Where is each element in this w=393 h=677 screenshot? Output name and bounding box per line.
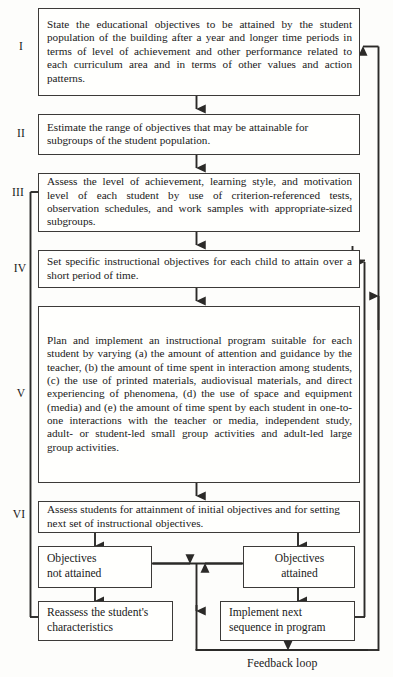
step-numeral-vi: VI <box>6 509 32 521</box>
outcome-box-reassess[interactable]: Reassess the student's characteristics <box>38 601 173 641</box>
outcome-text-implement: Implement next sequence in program <box>229 606 347 635</box>
step-numeral-i: I <box>10 41 32 53</box>
step-numeral-v: V <box>10 388 32 400</box>
step-box-iv[interactable]: Set specific instructional objectives fo… <box>38 250 360 288</box>
step-numeral-iv: IV <box>8 263 32 275</box>
outcome-text-attained: Objectives attained <box>252 552 347 581</box>
step-box-v[interactable]: Plan and implement an instructional prog… <box>38 306 360 483</box>
step-text-i: State the educational objectives to be a… <box>47 18 352 85</box>
step-box-iii[interactable]: Assess the level of achievement, learnin… <box>38 173 360 232</box>
outcome-box-implement[interactable]: Implement next sequence in program <box>220 601 355 641</box>
outcome-box-not-attained[interactable]: Objectives not attained <box>38 546 152 588</box>
feedback-loop-caption: Feedback loop <box>247 658 317 670</box>
outcome-text-reassess: Reassess the student's characteristics <box>47 606 165 635</box>
step-numeral-ii: II <box>10 128 32 140</box>
step-box-i[interactable]: State the educational objectives to be a… <box>38 8 360 96</box>
step-text-v: Plan and implement an instructional prog… <box>47 334 352 454</box>
outcome-text-not-attained: Objectives not attained <box>47 552 144 581</box>
step-text-iv: Set specific instructional objectives fo… <box>47 255 352 282</box>
step-text-iii: Assess the level of achievement, learnin… <box>47 175 352 228</box>
step-box-vi[interactable]: Assess students for attainment of initia… <box>38 501 360 533</box>
step-box-ii[interactable]: Estimate the range of objectives that ma… <box>38 114 360 155</box>
step-numeral-iii: III <box>6 187 30 199</box>
step-text-vi: Assess students for attainment of initia… <box>47 503 352 530</box>
step-text-ii: Estimate the range of objectives that ma… <box>47 121 352 148</box>
flowchart-diagram: I II III IV V VI State the educational o… <box>0 0 393 677</box>
outcome-box-attained[interactable]: Objectives attained <box>243 546 355 588</box>
